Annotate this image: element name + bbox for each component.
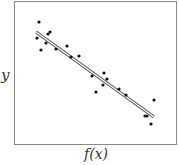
data-point (94, 90, 97, 93)
data-point (44, 41, 47, 44)
data-point (105, 77, 108, 80)
scatter-plot (0, 0, 179, 165)
data-point (54, 47, 57, 50)
data-point (124, 93, 127, 96)
data-point (35, 36, 38, 39)
x-axis-label: f(x) (84, 146, 108, 162)
data-point (37, 20, 40, 23)
data-point (90, 74, 93, 77)
regression-line (36, 32, 154, 117)
data-point (102, 71, 105, 74)
data-point (39, 48, 42, 51)
data-point (152, 98, 155, 101)
data-point (117, 87, 120, 90)
data-point (69, 55, 72, 58)
data-point (101, 83, 104, 86)
data-point (149, 122, 152, 125)
data-point (77, 54, 80, 57)
data-point (145, 114, 148, 117)
y-axis-label: y (1, 66, 9, 84)
data-point (65, 44, 68, 47)
data-point (48, 30, 51, 33)
